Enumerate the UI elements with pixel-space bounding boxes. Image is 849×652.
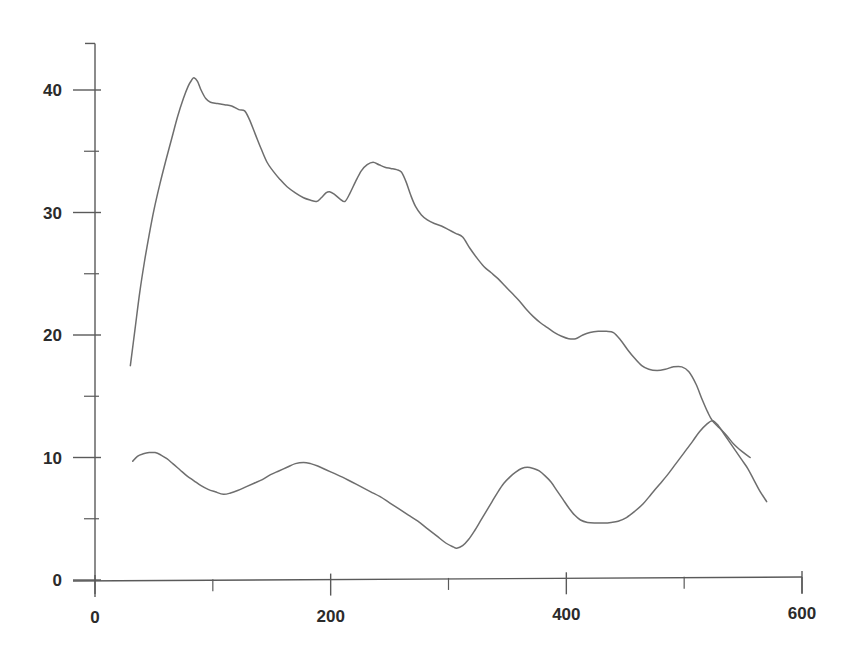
series-upper-curve bbox=[130, 78, 750, 458]
y-tick-label-40: 40 bbox=[43, 81, 62, 100]
y-tick-label-30: 30 bbox=[43, 204, 62, 223]
x-tick-label-400: 400 bbox=[552, 605, 580, 624]
series-lower-curve bbox=[133, 421, 767, 548]
y-tick-label-20: 20 bbox=[43, 326, 62, 345]
chart-tick-labels: 0102030400200400600 bbox=[43, 81, 816, 627]
x-tick-label-200: 200 bbox=[316, 607, 344, 626]
x-tick-label-600: 600 bbox=[788, 604, 816, 623]
x-tick-label-0: 0 bbox=[90, 608, 99, 627]
chart-container: 0102030400200400600 bbox=[0, 0, 849, 652]
chart-ticks bbox=[73, 90, 802, 597]
y-tick-label-10: 10 bbox=[43, 449, 62, 468]
x-axis-line bbox=[73, 577, 802, 581]
line-chart: 0102030400200400600 bbox=[0, 0, 849, 652]
y-tick-label-0: 0 bbox=[53, 571, 62, 590]
chart-series bbox=[130, 78, 766, 548]
chart-axes bbox=[73, 43, 802, 594]
